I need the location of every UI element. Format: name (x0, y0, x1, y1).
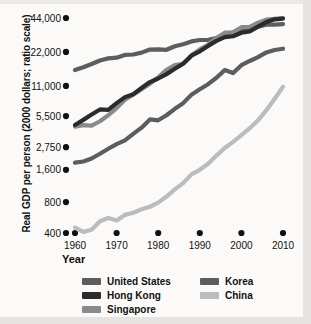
y-axis-tick-label: 2,750 (36, 142, 61, 153)
y-axis-tick: 2,750 (36, 142, 69, 153)
x-axis-tick: 1980 (147, 230, 170, 251)
series-line-hong-kong (75, 19, 283, 126)
legend-label: United States (107, 276, 171, 287)
legend-item-korea: Korea (200, 276, 253, 287)
x-axis-title: Year (62, 253, 85, 265)
x-axis-tick-dot (280, 230, 286, 236)
legend-swatch (82, 306, 101, 313)
x-axis-tick: 1990 (189, 230, 212, 251)
y-axis-tick: 44,000 (30, 13, 69, 24)
y-axis-tick-dot (63, 113, 69, 119)
chart-figure: Real GDP per person (2000 dollars; ratio… (0, 0, 311, 324)
y-axis-tick-label: 800 (44, 197, 61, 208)
x-axis-tick-label: 1980 (147, 240, 170, 251)
x-axis-tick: 2000 (230, 230, 253, 251)
y-axis-tick-dot (63, 83, 69, 89)
chart-legend: United StatesHong KongSingaporeKoreaChin… (82, 276, 292, 315)
legend-swatch (82, 292, 101, 299)
x-axis-tick-label: 1970 (105, 240, 128, 251)
y-axis-tick: 5,500 (36, 111, 69, 122)
x-axis-tick: 1970 (105, 230, 128, 251)
y-axis-tick: 22,000 (30, 47, 69, 58)
y-axis-tick-label: 22,000 (30, 47, 61, 58)
legend-label: China (225, 290, 253, 301)
x-axis-tick-label: 2010 (272, 240, 295, 251)
y-axis-tick-label: 1,600 (36, 164, 61, 175)
chart-plot-area: 4008001,6002,7505,50011,00022,00044,0001… (0, 0, 311, 270)
x-axis-tick-dot (197, 230, 203, 236)
legend-label: Singapore (107, 304, 156, 315)
y-axis-tick-label: 44,000 (30, 13, 61, 24)
y-axis-tick-label: 11,000 (31, 81, 61, 92)
y-axis-tick-dot (63, 167, 69, 173)
legend-column: KoreaChina (200, 276, 253, 315)
legend-label: Korea (225, 276, 253, 287)
y-axis-tick-dot (63, 15, 69, 21)
y-axis-tick-dot (63, 49, 69, 55)
y-axis-tick-dot (63, 199, 69, 205)
y-axis-tick: 1,600 (36, 164, 69, 175)
legend-item-hong-kong: Hong Kong (82, 290, 188, 301)
x-axis-tick-dot (238, 230, 244, 236)
legend-item-united-states: United States (82, 276, 188, 287)
y-axis-tick-label: 400 (44, 228, 61, 239)
legend-column: United StatesHong KongSingapore (82, 276, 188, 315)
x-axis-tick-dot (114, 230, 120, 236)
legend-item-china: China (200, 290, 253, 301)
legend-swatch (200, 278, 219, 285)
page-edge-bottom (0, 317, 311, 324)
y-axis-tick: 400 (44, 228, 69, 239)
legend-swatch (200, 292, 219, 299)
y-axis-tick-dot (63, 230, 69, 236)
x-axis-tick: 2010 (272, 230, 295, 251)
legend-item-singapore: Singapore (82, 304, 188, 315)
y-axis-tick: 800 (44, 197, 69, 208)
legend-swatch (82, 278, 101, 285)
y-axis-tick-label: 5,500 (36, 111, 61, 122)
x-axis-tick-label: 1990 (189, 240, 212, 251)
y-axis-tick: 11,000 (31, 81, 69, 92)
y-axis-tick-dot (63, 144, 69, 150)
legend-label: Hong Kong (107, 290, 161, 301)
x-axis-tick-dot (155, 230, 161, 236)
x-axis-tick-label: 2000 (230, 240, 253, 251)
x-axis-tick-label: 1960 (64, 240, 87, 251)
